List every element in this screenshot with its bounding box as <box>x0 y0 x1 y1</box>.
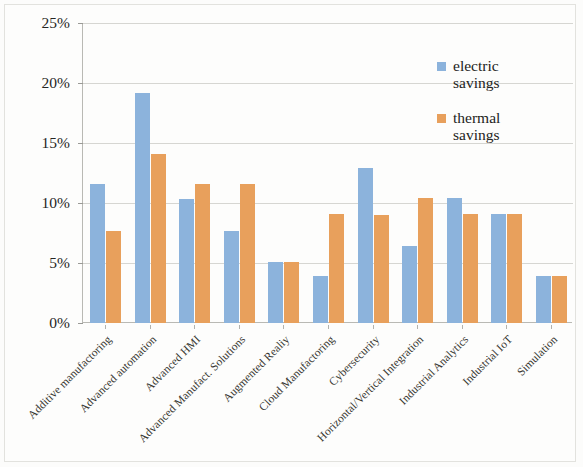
legend-swatch-icon <box>437 114 446 123</box>
bar-group <box>90 23 120 323</box>
bar-electric-savings <box>358 168 373 323</box>
bar-thermal-savings <box>552 276 567 323</box>
bar-thermal-savings <box>151 154 166 323</box>
bar-group <box>402 23 432 323</box>
bar-group <box>224 23 254 323</box>
x-axis-tick <box>417 325 418 329</box>
bar-group <box>268 23 298 323</box>
bar-group <box>313 23 343 323</box>
x-axis-tick <box>373 325 374 329</box>
bar-group <box>179 23 209 323</box>
bar-electric-savings <box>536 276 551 323</box>
legend-item[interactable]: electric savings <box>437 57 567 91</box>
y-axis-tick-label: 10% <box>42 194 70 212</box>
legend-label: electric savings <box>453 57 500 91</box>
bar-thermal-savings <box>374 215 389 323</box>
bar-electric-savings <box>447 198 462 323</box>
x-axis-tick <box>551 325 552 329</box>
bar-electric-savings <box>179 199 194 323</box>
x-axis-tick <box>239 325 240 329</box>
bar-thermal-savings <box>195 184 210 323</box>
legend-item[interactable]: thermal savings <box>437 109 567 143</box>
bar-thermal-savings <box>463 214 478 323</box>
bar-chart-figure: 0%5%10%15%20%25% electric savingsthermal… <box>0 0 583 467</box>
legend-label: thermal savings <box>453 109 500 143</box>
y-axis-tick <box>78 323 83 324</box>
y-axis-tick-label: 15% <box>42 134 70 152</box>
bar-electric-savings <box>90 184 105 323</box>
y-axis-tick-label: 5% <box>49 254 70 272</box>
legend-swatch-icon <box>437 62 446 71</box>
bar-group <box>358 23 388 323</box>
bar-thermal-savings <box>106 231 121 323</box>
y-axis-tick-label: 20% <box>42 74 70 92</box>
bar-electric-savings <box>402 246 417 323</box>
bar-electric-savings <box>135 93 150 323</box>
bar-thermal-savings <box>284 262 299 323</box>
y-axis-labels: 0%5%10%15%20%25% <box>0 23 76 323</box>
x-axis-tick <box>105 325 106 329</box>
bar-thermal-savings <box>240 184 255 323</box>
x-axis-tick <box>462 325 463 329</box>
x-axis-tick <box>506 325 507 329</box>
bar-electric-savings <box>491 214 506 323</box>
x-axis-tick <box>328 325 329 329</box>
bar-thermal-savings <box>418 198 433 323</box>
bar-electric-savings <box>268 262 283 323</box>
x-axis-tick <box>150 325 151 329</box>
x-axis-tick <box>283 325 284 329</box>
bar-group <box>135 23 165 323</box>
x-axis-tick <box>194 325 195 329</box>
x-axis-labels: Additive manufactoringAdvanced automatio… <box>0 325 583 467</box>
bar-thermal-savings <box>507 214 522 323</box>
bar-electric-savings <box>313 276 328 323</box>
bar-electric-savings <box>224 231 239 323</box>
bar-thermal-savings <box>329 214 344 323</box>
chart-legend: electric savingsthermal savings <box>437 57 567 161</box>
y-axis-tick-label: 25% <box>42 14 70 32</box>
